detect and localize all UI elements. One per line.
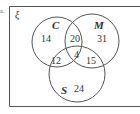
set-s-label: S — [61, 84, 67, 96]
region-c-only: 14 — [41, 33, 51, 44]
region-m-only: 31 — [97, 33, 107, 44]
question-marker: a. — [0, 8, 5, 14]
set-m-label: M — [93, 19, 105, 31]
region-s-only: 24 — [74, 83, 84, 94]
region-c-and-s: 12 — [51, 55, 61, 66]
venn-diagram: a. ξ C M S 14 31 24 20 12 15 4 — [0, 0, 140, 114]
set-c-label: C — [52, 19, 60, 31]
region-m-and-s: 15 — [86, 55, 96, 66]
venn-svg: a. ξ C M S 14 31 24 20 12 15 4 — [0, 0, 140, 114]
region-c-and-m: 20 — [70, 33, 80, 44]
region-c-m-s: 4 — [74, 49, 79, 60]
universal-set-symbol: ξ — [15, 9, 20, 21]
